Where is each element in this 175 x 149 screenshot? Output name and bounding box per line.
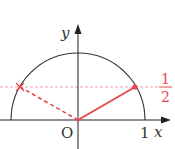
y-axis-arrow <box>75 24 82 34</box>
fraction-numerator: 1 <box>161 71 170 87</box>
y-axis-label: y <box>60 24 70 42</box>
radius-dashed <box>20 87 78 120</box>
x-axis-label: x <box>154 123 163 141</box>
origin-dot <box>76 118 79 121</box>
x-axis-arrow <box>161 117 171 124</box>
point-right-dot <box>132 84 137 89</box>
fraction-denominator: 2 <box>161 89 170 105</box>
origin-label: O <box>61 124 73 142</box>
unit-circle-diagram: y x O 1 1 2 <box>0 0 175 149</box>
radius-solid <box>78 87 135 120</box>
x-tick-label: 1 <box>140 124 150 142</box>
